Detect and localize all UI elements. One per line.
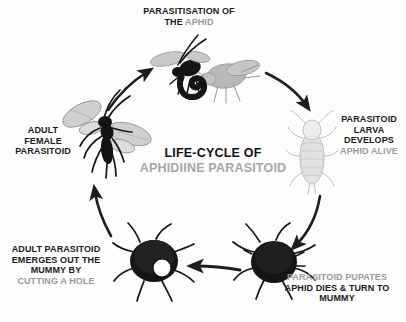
live-aphid-outline-illustration bbox=[286, 110, 338, 194]
stage-label-pupates-line3: MUMMY bbox=[319, 293, 355, 303]
stage-label-pupates-line1-grey: PARASITOID PUPATES bbox=[287, 272, 387, 282]
diagram-title-line2: APHIDIINE PARASITOID bbox=[133, 161, 293, 175]
stage-label-emerges-line2: EMERGES OUT THE bbox=[12, 255, 101, 265]
stage-label-adult-line1: ADULT bbox=[28, 125, 58, 135]
arrow-emerges-to-adult bbox=[95, 192, 111, 236]
stage-label-emerges-line3: MUMMY BY bbox=[31, 265, 82, 275]
stage-label-emerges: ADULT PARASITOID EMERGES OUT THE MUMMY B… bbox=[2, 244, 110, 286]
stage-label-adult-line2: FEMALE bbox=[24, 136, 62, 146]
arrow-parasitisation-to-larva bbox=[266, 73, 306, 105]
life-cycle-diagram: PARASITISATION OF THE APHID bbox=[0, 0, 406, 322]
stage-label-pupates: PARASITOID PUPATES APHID DIES & TURN TO … bbox=[268, 272, 406, 304]
diagram-title: LIFE-CYCLE OF APHIDIINE PARASITOID bbox=[133, 146, 293, 175]
exit-hole bbox=[153, 259, 171, 277]
stage-label-parasitisation: PARASITISATION OF THE APHID bbox=[114, 6, 264, 27]
stage-label-adult-line3: PARASITOID bbox=[15, 146, 71, 156]
stage-label-larva-line2: LARVA bbox=[354, 125, 385, 135]
stage-label-emerges-line1: ADULT PARASITOID bbox=[12, 244, 101, 254]
aphid-mummy-with-exit-hole-illustration bbox=[112, 222, 198, 302]
stage-label-parasitisation-line2-grey: APHID bbox=[185, 17, 214, 27]
stage-label-pupates-line2: APHID DIES & TURN TO bbox=[285, 283, 390, 293]
wasp-stinging-aphid-illustration bbox=[148, 32, 272, 110]
stage-label-larva-develops: PARASITOID LARVA DEVELOPS APHID ALIVE bbox=[333, 114, 405, 156]
stage-label-emerges-line4-grey: CUTTING A HOLE bbox=[17, 276, 94, 286]
stage-label-larva-line3: DEVELOPS bbox=[344, 135, 394, 145]
stage-label-larva-line1: PARASITOID bbox=[341, 114, 397, 124]
diagram-title-line1: LIFE-CYCLE OF bbox=[133, 146, 293, 160]
stage-label-larva-line4-grey: APHID ALIVE bbox=[340, 146, 398, 156]
stage-label-parasitisation-line1: PARASITISATION OF bbox=[143, 6, 234, 16]
stage-label-parasitisation-line2-dark: THE bbox=[164, 17, 185, 27]
stage-label-adult-female: ADULT FEMALE PARASITOID bbox=[4, 125, 82, 157]
